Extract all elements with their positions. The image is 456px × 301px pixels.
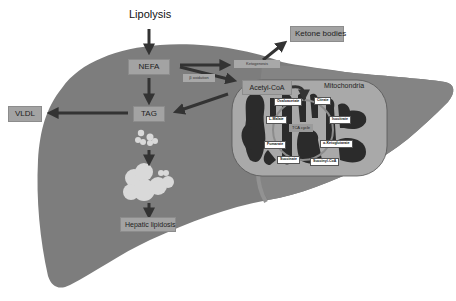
tca-oxaloacetate: Oxaloacetate <box>274 98 302 106</box>
ketone-bodies-node: Ketone bodies <box>290 26 344 42</box>
tca-succinate: Succinate <box>277 156 300 164</box>
tca-l-malate: L-Malate <box>266 116 287 124</box>
tca-citrate: Citrate <box>314 97 331 105</box>
arrow-ketogenesis-to-ketone-bodies <box>263 44 283 60</box>
tca-isocitrate: Isocitrate <box>329 116 351 124</box>
lipolysis-label: Lipolysis <box>129 9 171 20</box>
tca-fumarate: Fumarate <box>264 141 286 149</box>
tag-node: TAG <box>133 106 165 122</box>
mitochondria-label: Mitochondria <box>324 82 364 89</box>
tca-succinyl-coa: Succinyl-CoA <box>310 158 339 166</box>
hepatic-lipidosis-node: Hepatic lipidosis <box>120 217 176 232</box>
beta-oxidation-node: β oxidation <box>183 74 215 82</box>
ketogenesis-node: Ketogenesis <box>234 60 280 68</box>
nefa-node: NEFA <box>128 59 170 75</box>
acetyl-coa-node: Acetyl-CoA <box>242 80 292 95</box>
tca-alpha-ketoglutarate: α-Ketoglutarate <box>320 140 353 148</box>
tca-cycle-label: TCA cycle <box>289 124 313 132</box>
liver-diagram-canvas <box>0 0 456 301</box>
vldl-node: VLDL <box>8 106 42 122</box>
